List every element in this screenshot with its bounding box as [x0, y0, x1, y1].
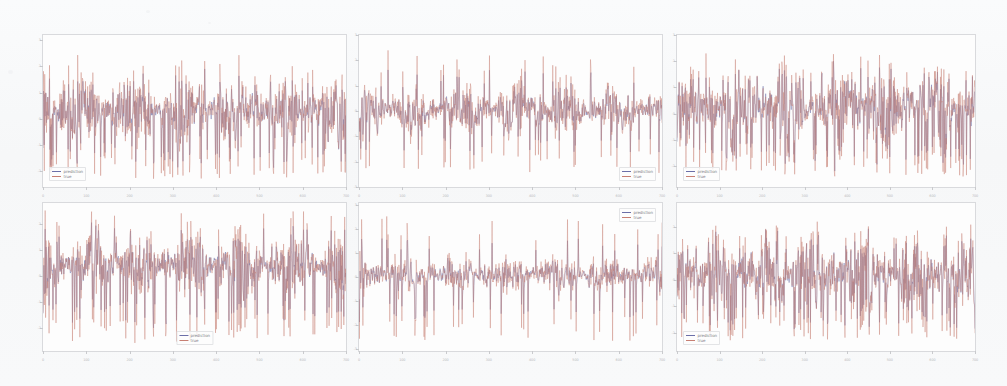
x-tick-label: 100 [83, 194, 89, 198]
x-tick [359, 351, 360, 354]
x-tick-label: 200 [759, 194, 765, 198]
y-tick-label: 1 [665, 85, 675, 89]
x-tick [402, 351, 403, 354]
y-tick-label: -3 [347, 347, 357, 351]
x-tick [173, 351, 174, 354]
legend-label: true [698, 339, 706, 343]
y-tick-label: -1 [31, 143, 41, 147]
legend-label: true [64, 175, 72, 179]
y-tick-label: 2 [347, 227, 357, 231]
x-tick [259, 187, 260, 190]
x-tick-label: 0 [676, 358, 678, 362]
x-tick [216, 187, 217, 190]
y-tick-label: -1 [665, 138, 675, 142]
plot-area [677, 203, 975, 351]
x-tick-label: 700 [659, 194, 665, 198]
x-tick [489, 351, 490, 354]
legend-label: true [633, 216, 641, 220]
legend-label: prediction [633, 211, 653, 215]
x-tick-label: 500 [572, 194, 578, 198]
legend-label: true [190, 339, 198, 343]
x-tick-label: 0 [42, 358, 44, 362]
y-tick-label: 2 [31, 222, 41, 226]
x-tick-label: 300 [486, 358, 492, 362]
legend-line-icon [52, 171, 61, 172]
legend[interactable]: predictiontrue [619, 208, 656, 222]
x-tick [446, 187, 447, 190]
legend-item-prediction[interactable]: prediction [52, 170, 83, 174]
figure-page: 0100200300400500600700-2-10123prediction… [0, 0, 1007, 386]
chart-panel-2: 0100200300400500600700-3-2-10123predicti… [358, 34, 663, 188]
x-tick-label: 500 [572, 358, 578, 362]
legend-item-true[interactable]: true [686, 175, 717, 179]
legend-item-true[interactable]: true [622, 175, 653, 179]
legend-item-true[interactable]: true [622, 216, 653, 220]
x-tick-label: 600 [300, 194, 306, 198]
legend-item-prediction[interactable]: prediction [686, 170, 717, 174]
y-tick-label: 1 [31, 248, 41, 252]
x-tick [847, 187, 848, 190]
legend-item-true[interactable]: true [686, 339, 717, 343]
x-tick [402, 187, 403, 190]
legend-label: prediction [633, 170, 653, 174]
x-tick [446, 351, 447, 354]
x-tick [677, 187, 678, 190]
x-tick-label: 700 [972, 358, 978, 362]
x-tick-label: 400 [844, 194, 850, 198]
x-tick [173, 187, 174, 190]
legend-item-true[interactable]: true [52, 175, 83, 179]
legend-line-icon [686, 335, 695, 336]
plot-area [43, 203, 346, 351]
x-tick [805, 351, 806, 354]
x-tick [662, 187, 663, 190]
legend[interactable]: predictiontrue [619, 167, 656, 181]
y-tick-label: -2 [31, 169, 41, 173]
series-prediction [359, 239, 662, 323]
legend-line-icon [622, 171, 631, 172]
x-tick-label: 700 [659, 358, 665, 362]
legend-item-prediction[interactable]: prediction [622, 211, 653, 215]
x-tick-label: 100 [399, 194, 405, 198]
x-tick [86, 187, 87, 190]
y-tick-label: 0 [31, 117, 41, 121]
x-tick-label: 100 [716, 358, 722, 362]
chart-panel-3: 0100200300400500600700-2-10123prediction… [676, 34, 976, 188]
legend[interactable]: predictiontrue [49, 167, 86, 181]
legend-item-prediction[interactable]: prediction [686, 334, 717, 338]
y-tick-label: 1 [347, 251, 357, 255]
chart-panel-4: 0100200300400500600700-2-1012predictiont… [42, 202, 347, 352]
x-tick [975, 351, 976, 354]
legend[interactable]: predictiontrue [683, 167, 720, 181]
y-tick-label: 3 [665, 33, 675, 37]
y-tick-label: 0 [665, 112, 675, 116]
y-tick-label: -2 [665, 331, 675, 335]
y-tick-label: 3 [31, 38, 41, 42]
x-tick-label: 0 [358, 194, 360, 198]
legend[interactable]: predictiontrue [683, 331, 720, 345]
x-tick [130, 187, 131, 190]
legend-item-prediction[interactable]: prediction [179, 334, 210, 338]
legend-line-icon [622, 217, 631, 218]
y-tick-label: -1 [665, 304, 675, 308]
x-tick [932, 187, 933, 190]
y-tick-label: 2 [665, 59, 675, 63]
y-tick-label: -1 [347, 299, 357, 303]
legend[interactable]: predictiontrue [176, 331, 213, 345]
x-tick-label: 600 [929, 358, 935, 362]
x-tick-label: 700 [343, 194, 349, 198]
y-tick-label: 1 [347, 84, 357, 88]
x-tick-label: 0 [42, 194, 44, 198]
x-tick [762, 351, 763, 354]
x-tick-label: 400 [529, 358, 535, 362]
x-tick [575, 351, 576, 354]
x-tick [43, 187, 44, 190]
legend-line-icon [686, 176, 695, 177]
x-tick-label: 600 [616, 194, 622, 198]
plot-area [359, 203, 662, 351]
y-tick-label: -2 [347, 323, 357, 327]
x-tick-label: 600 [300, 358, 306, 362]
x-tick-label: 200 [442, 358, 448, 362]
panel-grid: 0100200300400500600700-2-10123prediction… [0, 0, 1007, 386]
legend-item-true[interactable]: true [179, 339, 210, 343]
legend-item-prediction[interactable]: prediction [622, 170, 653, 174]
